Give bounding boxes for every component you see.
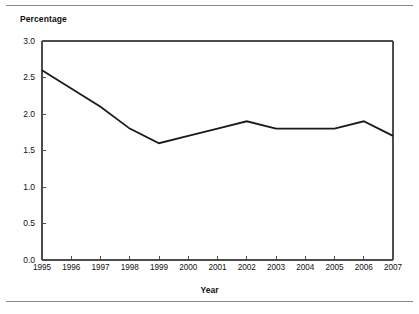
x-tick-label: 2006 bbox=[349, 264, 379, 272]
y-tick-label: 2.5 bbox=[9, 73, 35, 82]
y-tick-label: 2.0 bbox=[9, 110, 35, 119]
bottom-divider-rule bbox=[6, 301, 413, 302]
chart-figure: Percentage 0.00.51.01.52.02.53.0 1995199… bbox=[0, 0, 419, 314]
y-tick-label: 0.0 bbox=[9, 256, 35, 265]
x-tick-label: 2004 bbox=[290, 264, 320, 272]
y-tick-label: 0.5 bbox=[9, 219, 35, 228]
x-tick-label: 1995 bbox=[27, 264, 57, 272]
y-tick-label: 1.0 bbox=[9, 183, 35, 192]
x-tick-label: 1999 bbox=[144, 264, 174, 272]
data-series-line bbox=[42, 70, 393, 143]
x-tick-label: 2000 bbox=[173, 264, 203, 272]
y-tick-label: 3.0 bbox=[9, 37, 35, 46]
series-line-percentage bbox=[42, 70, 393, 143]
y-tick-label: 1.5 bbox=[9, 146, 35, 155]
x-tick-label: 2002 bbox=[232, 264, 262, 272]
x-tick-label: 1996 bbox=[56, 264, 86, 272]
x-tick-label: 2001 bbox=[203, 264, 233, 272]
x-tick-label: 2003 bbox=[261, 264, 291, 272]
x-tick-label: 1998 bbox=[115, 264, 145, 272]
axis-frame bbox=[42, 41, 393, 260]
x-tick-label: 2005 bbox=[320, 264, 350, 272]
x-tick-label: 1997 bbox=[86, 264, 116, 272]
x-tick-label: 2007 bbox=[378, 264, 408, 272]
plot-area: 0.00.51.01.52.02.53.0 199519961997199819… bbox=[0, 0, 419, 314]
x-axis-title: Year bbox=[0, 285, 419, 295]
